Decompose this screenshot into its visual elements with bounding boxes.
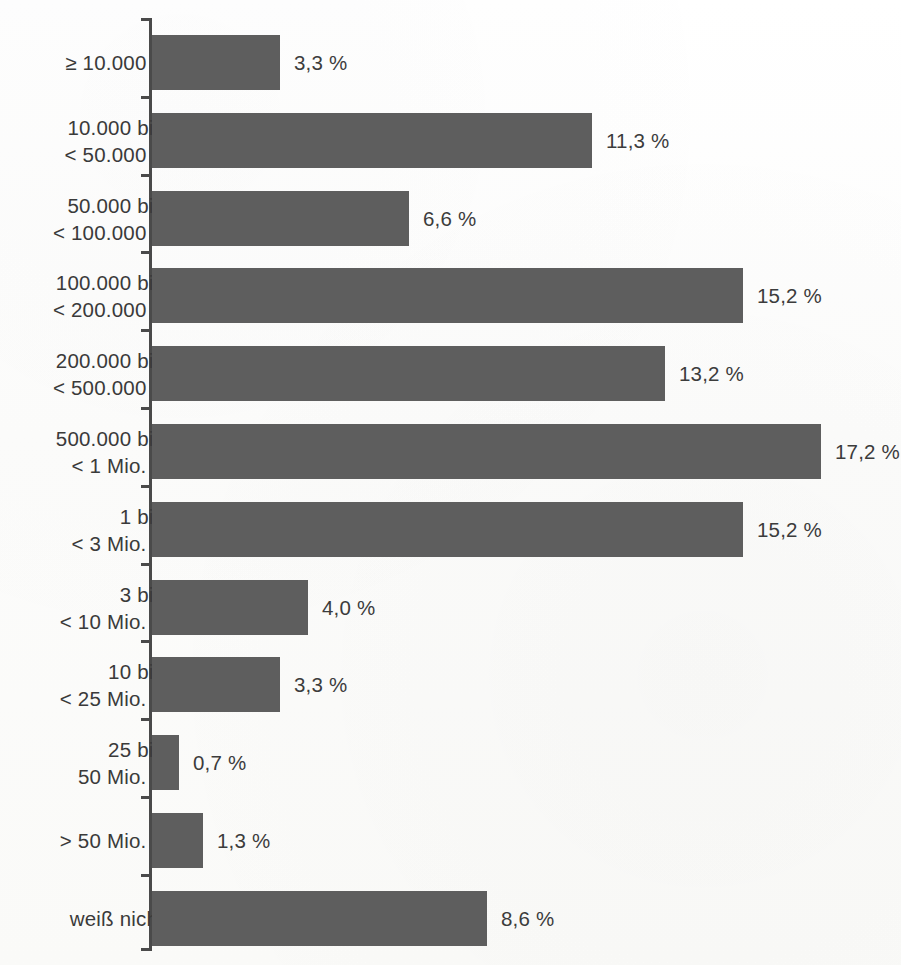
bar-row: 10.000 bis < 50.000 €11,3 % — [0, 113, 901, 168]
axis-tick — [141, 796, 150, 799]
bar-value-label: 4,0 % — [322, 580, 375, 635]
category-label: 50.000 bis < 100.000 € — [0, 192, 164, 246]
bar-row: 50.000 bis < 100.000 €6,6 % — [0, 191, 901, 246]
bar — [152, 35, 280, 90]
bar-row: 200.000 bis < 500.000 €13,2 % — [0, 346, 901, 401]
bar — [152, 424, 821, 479]
bar — [152, 891, 487, 946]
axis-tick — [141, 329, 150, 332]
bar — [152, 813, 203, 868]
category-label: 25 bis 50 Mio. € — [0, 736, 164, 790]
bar-row: 3 bis < 10 Mio. €4,0 % — [0, 580, 901, 635]
bar-row: ≥ 10.000 €3,3 % — [0, 35, 901, 90]
axis-cap-bottom — [141, 948, 152, 951]
bar-row: 10 bis < 25 Mio. €3,3 % — [0, 657, 901, 712]
bar-value-label: 11,3 % — [606, 113, 670, 168]
axis-tick — [141, 874, 150, 877]
bar — [152, 191, 409, 246]
bar-row: 1 bis < 3 Mio. €15,2 % — [0, 502, 901, 557]
category-label: 100.000 bis < 200.000 € — [0, 269, 164, 323]
bar — [152, 657, 280, 712]
category-label: > 50 Mio. € — [0, 827, 164, 854]
bar — [152, 346, 665, 401]
axis-tick — [141, 407, 150, 410]
bar — [152, 580, 308, 635]
axis-tick — [141, 485, 150, 488]
category-label: 10 bis < 25 Mio. € — [0, 658, 164, 712]
axis-tick — [141, 96, 150, 99]
bar-row: > 50 Mio. €1,3 % — [0, 813, 901, 868]
category-label: 3 bis < 10 Mio. € — [0, 581, 164, 635]
axis-tick — [141, 640, 150, 643]
axis-cap-top — [141, 18, 152, 21]
bar-row: 500.000 bis < 1 Mio. €17,2 % — [0, 424, 901, 479]
axis-tick — [141, 251, 150, 254]
bar-value-label: 15,2 % — [757, 502, 822, 557]
category-label: 200.000 bis < 500.000 € — [0, 347, 164, 401]
bar-row: 25 bis 50 Mio. €0,7 % — [0, 735, 901, 790]
bar-value-label: 1,3 % — [217, 813, 270, 868]
axis-tick — [141, 174, 150, 177]
bar-value-label: 0,7 % — [193, 735, 246, 790]
bar-value-label: 13,2 % — [679, 346, 744, 401]
category-label: 1 bis < 3 Mio. € — [0, 503, 164, 557]
bar — [152, 268, 743, 323]
bar — [152, 735, 179, 790]
bar-value-label: 17,2 % — [835, 424, 900, 479]
bar-value-label: 8,6 % — [501, 891, 554, 946]
category-label: 500.000 bis < 1 Mio. € — [0, 425, 164, 479]
bar-value-label: 3,3 % — [294, 657, 347, 712]
category-label: ≥ 10.000 € — [0, 49, 164, 76]
bar-row: 100.000 bis < 200.000 €15,2 % — [0, 268, 901, 323]
category-label: weiß nicht — [0, 905, 164, 932]
category-label: 10.000 bis < 50.000 € — [0, 114, 164, 168]
axis-tick — [141, 718, 150, 721]
axis-tick — [141, 563, 150, 566]
horizontal-bar-chart: ≥ 10.000 €3,3 %10.000 bis < 50.000 €11,3… — [0, 0, 901, 965]
bar-row: weiß nicht8,6 % — [0, 891, 901, 946]
bar-value-label: 3,3 % — [294, 35, 347, 90]
bar — [152, 502, 743, 557]
bar-value-label: 15,2 % — [757, 268, 822, 323]
bar — [152, 113, 592, 168]
bar-value-label: 6,6 % — [423, 191, 476, 246]
